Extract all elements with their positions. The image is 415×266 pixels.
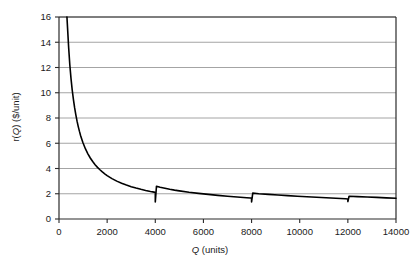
- svg-text:Q (units): Q (units): [192, 244, 228, 255]
- y-tick-label: 16: [40, 11, 51, 22]
- y-tick-label: 8: [46, 112, 51, 123]
- y-tick-label: 0: [46, 213, 51, 224]
- y-tick-label: 14: [40, 37, 51, 48]
- x-tick-label: 10000: [287, 226, 313, 237]
- y-tick-label: 12: [40, 62, 51, 73]
- y-tick-label: 6: [46, 138, 51, 149]
- x-tick-label: 14000: [383, 226, 409, 237]
- svg-text:r(Q) ($/unit): r(Q) ($/unit): [10, 92, 21, 141]
- x-axis-title: Q (units): [192, 244, 228, 255]
- y-axis-title: r(Q) ($/unit): [10, 92, 21, 141]
- x-tick-label: 6000: [193, 226, 214, 237]
- x-tick-label: 2000: [97, 226, 118, 237]
- x-tick-label: 12000: [335, 226, 361, 237]
- chart-plot: 0246810121416 02000400060008000100001200…: [0, 0, 415, 266]
- y-tick-label: 10: [40, 87, 51, 98]
- chart-container: 0246810121416 02000400060008000100001200…: [0, 0, 415, 266]
- x-tick-label: 0: [56, 226, 61, 237]
- y-tick-label: 4: [46, 163, 51, 174]
- y-tick-label: 2: [46, 188, 51, 199]
- x-tick-label: 8000: [241, 226, 262, 237]
- x-tick-label: 4000: [145, 226, 166, 237]
